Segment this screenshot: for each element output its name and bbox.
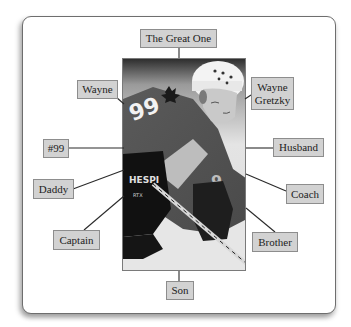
label-brother: Brother [252, 232, 298, 252]
hockey-player-photo: 99 9 HESPI RTX [122, 58, 246, 271]
label-coach: Coach [286, 184, 324, 204]
svg-text:RTX: RTX [133, 192, 143, 198]
label-daddy: Daddy [33, 179, 74, 199]
label-husband: Husband [273, 138, 324, 157]
label-captain: Captain [53, 230, 100, 250]
label-number-99: #99 [43, 139, 69, 158]
label-wayne: Wayne [77, 80, 118, 99]
label-wayne-gretzky-line2: Gretzky [255, 94, 290, 106]
player-photo-illustration: 99 9 HESPI RTX [123, 59, 246, 271]
label-wayne-gretzky-line1: Wayne [257, 81, 287, 93]
label-wayne-gretzky: Wayne Gretzky [251, 77, 294, 110]
label-son: Son [166, 281, 194, 300]
label-the-great-one: The Great One [140, 29, 217, 48]
